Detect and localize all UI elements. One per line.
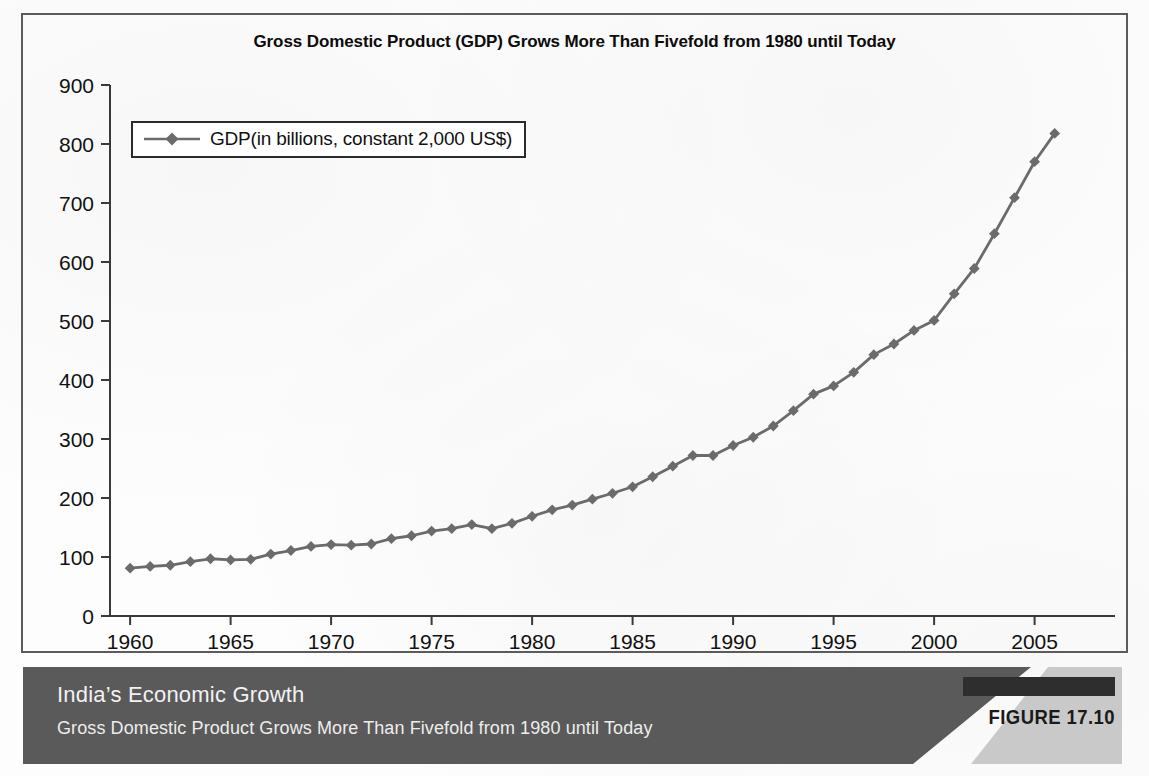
- x-axis-tick-label: 1960: [107, 630, 154, 653]
- series-marker: [607, 488, 618, 499]
- series-marker: [406, 530, 417, 541]
- caption-text-group: India’s Economic Growth Gross Domestic P…: [57, 683, 817, 738]
- x-axis: 1960196519701975198019851990199520002005: [107, 616, 1115, 653]
- y-axis-tick-label: 100: [59, 546, 94, 569]
- series-marker: [487, 523, 498, 534]
- series-marker: [728, 440, 739, 451]
- series-marker: [386, 533, 397, 544]
- x-axis-tick-label: 1995: [810, 630, 857, 653]
- x-axis-tick-label: 1985: [609, 630, 656, 653]
- series-marker: [225, 555, 236, 566]
- y-axis-tick-label: 700: [59, 192, 94, 215]
- plot-area: 0100200300400500600700800900 19601965197…: [23, 15, 1130, 655]
- series-marker: [748, 432, 759, 443]
- series-marker: [547, 504, 558, 515]
- series-marker: [205, 553, 216, 564]
- y-axis-tick-label: 300: [59, 428, 94, 451]
- y-axis-tick-label: 600: [59, 251, 94, 274]
- y-axis: 0100200300400500600700800900: [59, 74, 110, 628]
- gdp-series: [125, 128, 1060, 574]
- series-marker: [366, 539, 377, 550]
- series-marker: [627, 481, 638, 492]
- series-marker: [326, 539, 337, 550]
- x-axis-tick-label: 1965: [207, 630, 254, 653]
- series-marker: [507, 518, 518, 529]
- series-marker: [306, 541, 317, 552]
- series-marker: [587, 494, 598, 505]
- series-marker: [286, 545, 297, 556]
- series-marker: [1009, 192, 1020, 203]
- series-marker: [567, 500, 578, 511]
- chart-legend: GDP(in billions, constant 2,000 US$): [131, 121, 526, 158]
- series-marker: [125, 563, 136, 574]
- x-axis-tick-label: 1980: [509, 630, 556, 653]
- chart-frame: Gross Domestic Product (GDP) Grows More …: [21, 13, 1128, 653]
- caption-subtitle: Gross Domestic Product Grows More Than F…: [57, 719, 817, 738]
- series-marker: [667, 461, 678, 472]
- legend-marker-icon: [143, 131, 201, 147]
- series-marker: [446, 523, 457, 534]
- figure-badge: FIGURE 17.10: [963, 677, 1115, 729]
- series-marker: [426, 526, 437, 537]
- legend-label: GDP(in billions, constant 2,000 US$): [210, 128, 512, 150]
- series-marker: [245, 554, 256, 565]
- series-marker: [145, 561, 156, 572]
- series-marker: [265, 549, 276, 560]
- series-marker: [688, 450, 699, 461]
- x-axis-tick-label: 2005: [1011, 630, 1058, 653]
- series-marker: [466, 519, 477, 530]
- line-chart-svg: 0100200300400500600700800900 19601965197…: [23, 15, 1130, 655]
- y-axis-tick-label: 400: [59, 369, 94, 392]
- caption-title: India’s Economic Growth: [57, 683, 817, 706]
- x-axis-tick-label: 1970: [308, 630, 355, 653]
- y-axis-tick-label: 0: [82, 605, 94, 628]
- x-axis-tick-label: 1990: [710, 630, 757, 653]
- y-axis-tick-label: 900: [59, 74, 94, 97]
- x-axis-tick-label: 1975: [408, 630, 455, 653]
- series-marker: [708, 450, 719, 461]
- series-marker: [185, 556, 196, 567]
- y-axis-tick-label: 200: [59, 487, 94, 510]
- y-axis-tick-label: 800: [59, 133, 94, 156]
- y-axis-tick-label: 500: [59, 310, 94, 333]
- figure-badge-bar: [963, 677, 1115, 696]
- series-marker: [647, 471, 658, 482]
- figure-number-label: FIGURE 17.10: [981, 705, 1115, 729]
- x-axis-tick-label: 2000: [911, 630, 958, 653]
- figure-caption-band: India’s Economic Growth Gross Domestic P…: [23, 667, 1122, 764]
- series-marker: [346, 540, 357, 551]
- series-marker: [527, 511, 538, 522]
- series-marker: [165, 560, 176, 571]
